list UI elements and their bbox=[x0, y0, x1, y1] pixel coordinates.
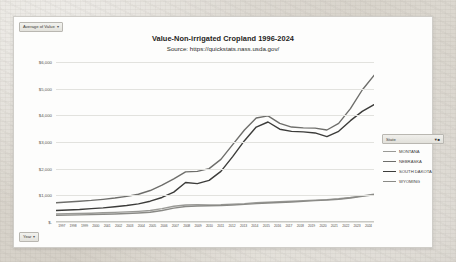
pivot-field-button-value[interactable]: Average of Value ▾ bbox=[19, 22, 63, 32]
x-axis-tick-label: 2021 bbox=[329, 224, 340, 232]
x-axis-tick-label: 2005 bbox=[147, 224, 158, 232]
y-axis-tick-label: $4,000 bbox=[39, 113, 52, 118]
series-line-montana bbox=[56, 194, 374, 214]
pivot-chart-panel: Average of Value ▾ Year ▾ Value-Non-irri… bbox=[13, 16, 433, 248]
chart-subtitle: Source: https://quickstats.nass.usda.gov… bbox=[14, 45, 432, 52]
legend-item-label: NEBRASKA bbox=[399, 159, 422, 164]
x-axis-tick-label: 2019 bbox=[306, 224, 317, 232]
legend-item-label: WYOMING bbox=[399, 179, 420, 184]
x-axis-tick-label: 2002 bbox=[113, 224, 124, 232]
y-axis-tick-label: $2,000 bbox=[39, 166, 52, 171]
legend-item-label: MONTANA bbox=[399, 149, 420, 154]
y-axis-tick-label: $1,000 bbox=[39, 193, 52, 198]
x-axis-tick-label: 2010 bbox=[204, 224, 215, 232]
x-axis-tick-label: 1997 bbox=[56, 224, 67, 232]
legend-header-label: State bbox=[386, 137, 396, 142]
x-axis-tick-label: 2016 bbox=[272, 224, 283, 232]
y-axis-tick-label: $3,000 bbox=[39, 140, 52, 145]
x-axis-tick-label: 2017 bbox=[283, 224, 294, 232]
gridline bbox=[56, 115, 374, 116]
gridline bbox=[56, 89, 374, 90]
x-axis-tick-label: 2000 bbox=[90, 224, 101, 232]
y-axis-tick-label: $6,000 bbox=[39, 60, 52, 65]
chart-title: Value-Non-irrigated Cropland 1996-2024 bbox=[14, 34, 432, 43]
x-axis-tick-label: 2015 bbox=[260, 224, 271, 232]
chevron-down-icon: ▾ bbox=[57, 23, 59, 31]
x-axis-tick-label: 1999 bbox=[79, 224, 90, 232]
x-axis-tick-label: 2011 bbox=[215, 224, 226, 232]
x-axis-tick-label: 2008 bbox=[181, 224, 192, 232]
legend-swatch bbox=[383, 161, 396, 163]
x-axis-tick-label: 2020 bbox=[317, 224, 328, 232]
x-axis-tick-label: 2007 bbox=[170, 224, 181, 232]
chevron-down-icon: ▾ bbox=[33, 233, 35, 241]
gridline bbox=[56, 142, 374, 143]
gridline bbox=[56, 62, 374, 63]
x-axis-line bbox=[56, 221, 374, 222]
pivot-field-button-year[interactable]: Year ▾ bbox=[19, 232, 39, 242]
x-axis-tick-label: 1998 bbox=[67, 224, 78, 232]
legend-item[interactable]: MONTANA bbox=[382, 149, 444, 154]
legend-swatch bbox=[383, 151, 396, 153]
pivot-field-year-label: Year bbox=[23, 233, 31, 241]
x-axis-tick-labels: 1997199819992000200120022003200420052006… bbox=[56, 224, 374, 232]
filter-icon[interactable]: ▼■ bbox=[434, 137, 440, 142]
y-axis-tick-label: $- bbox=[48, 220, 52, 225]
legend-item-label: SOUTH DAKOTA bbox=[399, 169, 432, 174]
legend-header[interactable]: State ▼■ bbox=[382, 134, 444, 144]
legend-entries: MONTANANEBRASKASOUTH DAKOTAWYOMING bbox=[382, 149, 444, 184]
x-axis-tick-label: 2024 bbox=[363, 224, 374, 232]
legend-item[interactable]: NEBRASKA bbox=[382, 159, 444, 164]
legend-swatch bbox=[383, 171, 396, 173]
x-axis-tick-label: 2022 bbox=[340, 224, 351, 232]
x-axis-tick-label: 2009 bbox=[192, 224, 203, 232]
legend: State ▼■ MONTANANEBRASKASOUTH DAKOTAWYOM… bbox=[382, 134, 444, 184]
x-axis-tick-label: 2003 bbox=[124, 224, 135, 232]
gridline bbox=[56, 169, 374, 170]
series-line-nebraska bbox=[56, 75, 374, 202]
x-axis-tick-label: 2014 bbox=[249, 224, 260, 232]
x-axis-tick-label: 2001 bbox=[101, 224, 112, 232]
y-axis-tick-label: $5,000 bbox=[39, 86, 52, 91]
x-axis-tick-label: 2012 bbox=[226, 224, 237, 232]
legend-swatch bbox=[383, 181, 396, 183]
legend-item[interactable]: WYOMING bbox=[382, 179, 444, 184]
chart-title-block: Value-Non-irrigated Cropland 1996-2024 S… bbox=[14, 34, 432, 52]
x-axis-tick-label: 2006 bbox=[158, 224, 169, 232]
x-axis-tick-label: 2018 bbox=[295, 224, 306, 232]
x-axis-tick-label: 2004 bbox=[136, 224, 147, 232]
gridline bbox=[56, 195, 374, 196]
legend-item[interactable]: SOUTH DAKOTA bbox=[382, 169, 444, 174]
gridline bbox=[56, 222, 374, 223]
x-axis-tick-label: 2013 bbox=[238, 224, 249, 232]
x-axis-tick-label: 2023 bbox=[351, 224, 362, 232]
pivot-field-value-label: Average of Value bbox=[23, 23, 55, 31]
plot-area: $-$1,000$2,000$3,000$4,000$5,000$6,000 bbox=[56, 62, 374, 222]
